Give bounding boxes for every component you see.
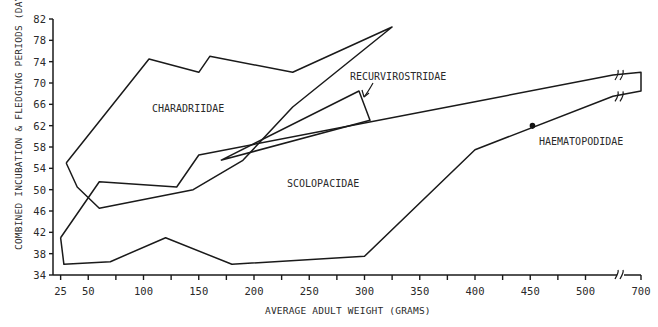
x-tick-label: 50: [82, 285, 95, 297]
x-tick-label: 100: [134, 285, 153, 297]
recurvirostridae-arrow-icon: [364, 83, 373, 97]
x-tick-label: 150: [189, 285, 208, 297]
x-ticks: 2550100150200250300350400450500700: [54, 275, 650, 297]
point-haematopodidae: [530, 123, 536, 129]
y-axis-title: COMBINED INCUBATION & FLEDGING PERIODS (…: [13, 0, 24, 250]
y-tick-label: 58: [33, 141, 46, 153]
y-tick-label: 74: [33, 56, 46, 68]
label-haematopodidae: HAEMATOPODIDAE: [539, 136, 623, 147]
y-tick-label: 62: [33, 120, 46, 132]
x-tick-label: 200: [245, 285, 264, 297]
y-tick-label: 42: [33, 226, 46, 238]
y-tick-label: 50: [33, 184, 46, 196]
y-tick-label: 38: [33, 248, 46, 260]
x-axis-title: AVERAGE ADULT WEIGHT (GRAMS): [265, 305, 431, 316]
label-charadriidae: CHARADRIIDAE: [152, 103, 224, 114]
chart: 34384246505458626670747882 2550100150200…: [0, 0, 658, 327]
x-tick-label: 450: [521, 285, 540, 297]
x-tick-label: 25: [54, 285, 67, 297]
y-tick-label: 66: [33, 98, 46, 110]
y-tick-label: 34: [33, 269, 46, 281]
axes: [53, 19, 641, 279]
x-tick-label: 500: [576, 285, 595, 297]
x-tick-label: 400: [466, 285, 485, 297]
series-recurvirostridae: [221, 91, 370, 160]
y-tick-label: 82: [33, 13, 46, 25]
x-tick-label: 350: [410, 285, 429, 297]
label-recurvirostridae: RECURVIROSTRIDAE: [350, 71, 446, 82]
y-tick-label: 46: [33, 205, 46, 217]
y-tick-label: 54: [33, 162, 46, 174]
y-tick-label: 70: [33, 77, 46, 89]
x-tick-label: 700: [632, 285, 651, 297]
y-tick-label: 78: [33, 34, 46, 46]
x-tick-label: 250: [300, 285, 319, 297]
label-scolopacidae: SCOLOPACIDAE: [287, 178, 359, 189]
x-tick-label: 300: [355, 285, 374, 297]
y-ticks: 34384246505458626670747882: [33, 13, 53, 281]
series-scolopacidae: [61, 72, 641, 264]
